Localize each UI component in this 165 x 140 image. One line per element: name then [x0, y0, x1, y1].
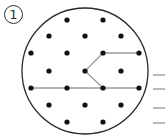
- grid-dot: [100, 119, 105, 124]
- grid-dot: [64, 50, 69, 55]
- grid-dot: [46, 68, 51, 73]
- grid-dot: [100, 50, 105, 55]
- grid-dot: [118, 68, 123, 73]
- grid-dot: [46, 102, 51, 107]
- grid-dot: [46, 33, 51, 38]
- grid-dot: [82, 33, 87, 38]
- grid-dot: [100, 17, 105, 22]
- path-line: [85, 53, 139, 88]
- grid-dots: [28, 17, 141, 124]
- grid-dot: [28, 50, 33, 55]
- grid-dot: [118, 102, 123, 107]
- grid-dot: [28, 85, 33, 90]
- dot-circle-diagram: [0, 0, 165, 140]
- grid-dot: [64, 119, 69, 124]
- grid-dot: [136, 50, 141, 55]
- grid-dot: [82, 68, 87, 73]
- grid-dot: [82, 102, 87, 107]
- answer-lines: [153, 75, 165, 123]
- grid-dot: [64, 85, 69, 90]
- grid-dot: [118, 33, 123, 38]
- grid-dot: [100, 85, 105, 90]
- grid-dot: [136, 85, 141, 90]
- grid-dot: [64, 17, 69, 22]
